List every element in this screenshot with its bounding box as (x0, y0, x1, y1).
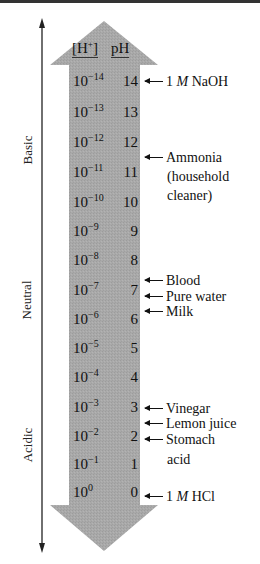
h-concentration-value: 10−8 (73, 252, 99, 269)
ph-value: 10 (123, 194, 138, 211)
left-arrow-icon (145, 157, 163, 158)
scale-row: 10−22 (72, 428, 140, 448)
ph-value: 9 (131, 223, 139, 240)
axis-down-arrowhead-icon (39, 543, 45, 553)
label-basic: Basic (20, 136, 36, 165)
ph-value: 6 (131, 311, 139, 328)
h-concentration-value: 10−5 (73, 340, 99, 357)
annotation-stomach-acid: Stomach acid (145, 430, 215, 470)
left-arrow-icon (145, 423, 163, 424)
left-arrow-icon (145, 280, 163, 281)
ph-value: 11 (124, 164, 138, 181)
left-arrow-icon (145, 439, 163, 440)
h-concentration-value: 10−9 (73, 223, 99, 240)
header-h-concentration: [H+] (72, 40, 98, 58)
h-concentration-value: 10−3 (73, 399, 99, 416)
h-concentration-value: 10−13 (73, 104, 104, 121)
left-arrow-icon (145, 496, 163, 497)
scale-row: 10−77 (72, 282, 140, 302)
ph-value: 8 (131, 252, 139, 269)
label-acidic: Acidic (20, 428, 36, 463)
ph-value: 2 (131, 428, 139, 445)
annotation-milk: Milk (145, 304, 193, 320)
left-arrow-icon (145, 296, 163, 297)
h-concentration-value: 100 (73, 484, 93, 501)
h-concentration-value: 10−1 (73, 456, 99, 473)
scale-row: 10−33 (72, 399, 140, 419)
annotation-ammonia: Ammonia (household cleaner) (145, 148, 229, 205)
axis-up-arrowhead-icon (39, 18, 45, 28)
ph-value: 12 (123, 134, 138, 151)
h-concentration-value: 10−10 (73, 194, 104, 211)
h-concentration-value: 10−11 (73, 164, 103, 181)
label-neutral: Neutral (19, 281, 35, 320)
annotation-pure-water: Pure water (145, 289, 226, 305)
scale-row: 10−66 (72, 311, 140, 331)
scale-row: 1000 (72, 484, 140, 504)
left-arrow-icon (145, 81, 163, 82)
ph-value: 4 (131, 369, 139, 386)
annotation-vinegar: Vinegar (145, 401, 210, 417)
h-concentration-value: 10−12 (73, 134, 104, 151)
ph-value: 1 (131, 456, 139, 473)
scale-row: 10−1414 (72, 73, 140, 93)
scale-row: 10−1212 (72, 134, 140, 154)
scale-row: 10−1313 (72, 104, 140, 124)
left-arrow-icon (145, 311, 163, 312)
h-concentration-value: 10−6 (73, 311, 99, 328)
ph-value: 5 (131, 340, 139, 357)
ph-value: 14 (123, 73, 138, 90)
annotation-hcl: 1 M HCl (145, 489, 215, 505)
scale-row: 10−44 (72, 369, 140, 389)
h-concentration-value: 10−14 (73, 73, 104, 90)
scale-row: 10−11 (72, 456, 140, 476)
ph-value: 13 (123, 104, 138, 121)
ph-value: 7 (131, 282, 139, 299)
annotation-blood: Blood (145, 273, 200, 289)
left-arrow-icon (145, 408, 163, 409)
ph-value: 0 (131, 484, 139, 501)
scale-row: 10−1010 (72, 194, 140, 214)
h-concentration-value: 10−4 (73, 369, 99, 386)
header-ph: pH (111, 40, 129, 58)
h-concentration-value: 10−2 (73, 428, 99, 445)
scale-row: 10−55 (72, 340, 140, 360)
h-concentration-value: 10−7 (73, 282, 99, 299)
annotation-naoh: 1 M NaOH (145, 74, 228, 90)
scale-row: 10−1111 (72, 164, 140, 184)
scale-row: 10−99 (72, 223, 140, 243)
scale-row: 10−88 (72, 252, 140, 272)
ph-value: 3 (131, 399, 139, 416)
